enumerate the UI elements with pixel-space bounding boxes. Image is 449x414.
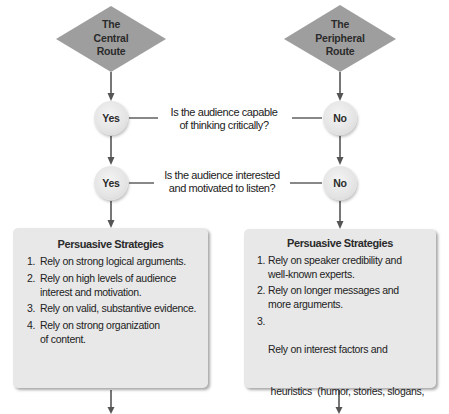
- arrowhead-icon: [108, 220, 115, 228]
- item-text: well-known experts.: [268, 267, 402, 281]
- item-text: Rely on valid, substantive evidence.: [40, 301, 196, 315]
- item-text: heuristics (humor, stories, slogans,: [268, 384, 424, 398]
- central-route-label-line: The: [71, 18, 151, 32]
- arrowhead-icon: [108, 407, 115, 414]
- question-motivation: Is the audience interested and motivated…: [152, 169, 292, 195]
- peripheral-answer1-node: No: [323, 101, 357, 135]
- central-route-label-line: Central: [71, 32, 151, 46]
- item-number: 2.: [257, 283, 268, 311]
- item-text: Rely on longer messages and: [268, 283, 399, 297]
- item-text: Rely on strong organization: [40, 318, 160, 332]
- strategy-item: 2. Rely on longer messages and more argu…: [257, 283, 436, 311]
- strategy-item: 2. Rely on high levels of audience inter…: [27, 271, 208, 299]
- item-text: Rely on speaker credibility and: [268, 253, 402, 267]
- central-answer2-node: Yes: [94, 166, 128, 200]
- item-number: 4.: [27, 318, 40, 346]
- strategies-heading: Persuasive Strategies: [13, 237, 208, 251]
- central-strategies-box: Persuasive Strategies 1. Rely on strong …: [13, 228, 208, 388]
- strategy-item: 3. Rely on valid, substantive evidence.: [27, 301, 208, 315]
- item-number: 3.: [27, 301, 40, 315]
- strategy-item: 1. Rely on strong logical arguments.: [27, 254, 208, 268]
- item-text: more arguments.: [268, 297, 399, 311]
- central-route-label: The Central Route: [71, 18, 151, 59]
- item-text: Rely on high levels of audience: [40, 271, 176, 285]
- question-line: of thinking critically?: [154, 119, 294, 132]
- central-route-label-line: Route: [71, 45, 151, 59]
- arrowhead-icon: [108, 93, 115, 101]
- item-text: interest and motivation.: [40, 285, 176, 299]
- arrowhead-icon: [337, 157, 344, 165]
- item-text: Rely on strong logical arguments.: [40, 254, 186, 268]
- item-number: 2.: [27, 271, 40, 299]
- item-number: 1.: [257, 253, 268, 281]
- arrowhead-icon: [108, 157, 115, 165]
- item-text: Rely on interest factors and: [268, 342, 424, 356]
- arrowhead-icon: [337, 221, 344, 229]
- question-critical-thinking: Is the audience capable of thinking crit…: [154, 106, 294, 132]
- strategy-item: 1. Rely on speaker credibility and well-…: [257, 253, 436, 281]
- peripheral-route-label-line: Route: [300, 45, 380, 59]
- peripheral-route-label: The Peripheral Route: [300, 18, 380, 59]
- question-line: Is the audience capable: [154, 106, 294, 119]
- strategy-item: 4. Rely on strong organization of conten…: [27, 318, 208, 346]
- question-line: Is the audience interested: [152, 169, 292, 182]
- strategy-item: 3. Rely on interest factors and heuristi…: [257, 314, 436, 414]
- strategies-heading: Persuasive Strategies: [244, 236, 436, 250]
- peripheral-answer2-node: No: [323, 166, 357, 200]
- peripheral-strategies-box: Persuasive Strategies 1. Rely on speaker…: [244, 229, 436, 388]
- central-answer1-node: Yes: [94, 101, 128, 135]
- item-text: of content.: [40, 332, 160, 346]
- item-number: 1.: [27, 254, 40, 268]
- question-line: and motivated to listen?: [152, 182, 292, 195]
- arrowhead-icon: [337, 93, 344, 101]
- peripheral-route-label-line: Peripheral: [300, 32, 380, 46]
- peripheral-route-label-line: The: [300, 18, 380, 32]
- item-number: 3.: [257, 314, 268, 414]
